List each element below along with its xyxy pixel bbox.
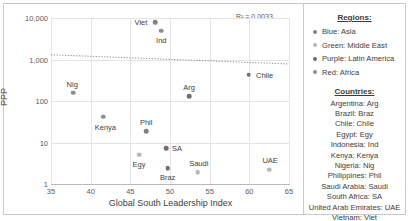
country-legend-item: Indonesia: Ind	[304, 140, 405, 150]
data-point-kenya[interactable]	[101, 114, 106, 119]
regions-heading: Regions:	[304, 13, 405, 22]
data-point-phil[interactable]	[144, 129, 149, 134]
data-point-uae[interactable]	[267, 167, 272, 172]
legend-item-label: Purple: Latin America	[322, 54, 394, 63]
x-tick-label: 65	[285, 187, 293, 196]
data-label-sa: SA	[172, 144, 182, 153]
data-point-arg[interactable]	[187, 94, 192, 99]
legend-color-dot	[313, 70, 317, 74]
country-legend-item: Vietnam: Viet	[304, 213, 405, 220]
legend-panel: Regions: Blue: AsiaGreen: Middle EastPur…	[304, 4, 405, 214]
country-legend-item: Saudi Arabia: Saudi	[304, 182, 405, 192]
data-label-phil: Phil	[140, 117, 153, 126]
x-tick-label: 60	[245, 187, 253, 196]
data-label-braz: Braz	[160, 173, 175, 182]
y-axis-ticks: 10,0001,000100101	[4, 18, 48, 184]
y-tick-label: 10	[40, 138, 48, 147]
y-tick-label: 10,000	[25, 14, 48, 23]
data-label-uae: UAE	[262, 155, 277, 164]
data-label-arg: Arg	[183, 83, 195, 92]
country-legend-item: Nigeria: Nig	[304, 161, 405, 171]
country-legend-item: South Africa: SA	[304, 192, 405, 202]
chart-frame: R² = 0.0033 VietIndChileNigArgKenyaPhilS…	[3, 3, 406, 215]
legend-item: Red: Africa	[313, 68, 405, 77]
data-point-braz[interactable]	[165, 166, 170, 171]
data-point-ind[interactable]	[159, 29, 164, 34]
data-point-nig[interactable]	[71, 90, 76, 95]
legend-color-dot	[313, 43, 317, 47]
data-label-kenya: Kenya	[95, 122, 116, 131]
country-legend-item: Chile: Chile	[304, 119, 405, 129]
data-label-egy: Egy	[133, 159, 146, 168]
x-axis-label: Global South Leadership Index	[51, 198, 290, 208]
data-point-saudi[interactable]	[195, 170, 200, 175]
y-axis-label: PPP	[0, 88, 9, 106]
y-tick-label: 100	[35, 97, 48, 106]
gridline-horizontal	[51, 60, 289, 61]
legend-item-label: Red: Africa	[322, 68, 359, 77]
legend-item-label: Green: Middle East	[322, 41, 387, 50]
legend-item-label: Blue: Asia	[322, 27, 356, 36]
data-label-viet: Viet	[135, 18, 148, 27]
data-point-egy[interactable]	[137, 152, 142, 157]
country-legend-item: Egypt: Egy	[304, 130, 405, 140]
gridline-horizontal	[51, 101, 289, 102]
data-label-saudi: Saudi	[189, 158, 208, 167]
data-point-viet[interactable]	[153, 20, 158, 25]
data-label-nig: Nig	[67, 79, 78, 88]
x-tick-label: 35	[47, 187, 55, 196]
gridline-horizontal	[51, 18, 289, 19]
scatter-chart: R² = 0.0033 VietIndChileNigArgKenyaPhilS…	[4, 4, 303, 214]
country-legend-item: Brazil: Braz	[304, 109, 405, 119]
x-tick-label: 50	[166, 187, 174, 196]
country-legend-item: Kenya: Kenya	[304, 151, 405, 161]
data-point-chile[interactable]	[246, 72, 251, 77]
legend-item: Blue: Asia	[313, 27, 405, 36]
region-legend-list: Blue: AsiaGreen: Middle EastPurple: Lati…	[304, 27, 405, 77]
x-tick-label: 40	[86, 187, 94, 196]
plot-area: VietIndChileNigArgKenyaPhilSAEgyBrazSaud…	[51, 18, 289, 184]
data-label-ind: Ind	[156, 35, 166, 44]
legend-color-dot	[313, 30, 317, 34]
country-legend-item: Philippines: Phil	[304, 171, 405, 181]
country-abbreviation-list: Argentina: ArgBrazil: BrazChile: ChileEg…	[304, 99, 405, 221]
x-tick-label: 45	[126, 187, 134, 196]
country-legend-item: United Arab Emirates: UAE	[304, 203, 405, 213]
data-point-sa[interactable]	[164, 146, 169, 151]
data-label-chile: Chile	[256, 70, 273, 79]
gridline-vertical	[289, 18, 290, 184]
country-legend-item: Argentina: Arg	[304, 99, 405, 109]
legend-item: Purple: Latin America	[313, 54, 405, 63]
legend-color-dot	[313, 57, 317, 61]
x-tick-label: 55	[205, 187, 213, 196]
y-tick-label: 1,000	[29, 55, 48, 64]
gridline-horizontal	[51, 143, 289, 144]
x-axis-line	[51, 184, 290, 185]
countries-heading: Countries:	[304, 87, 405, 96]
legend-item: Green: Middle East	[313, 41, 405, 50]
